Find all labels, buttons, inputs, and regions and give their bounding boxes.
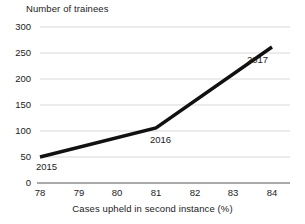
x-tick-84: 84 <box>267 187 278 198</box>
y-tick-50: 50 <box>20 151 31 162</box>
x-tick-82: 82 <box>190 187 201 198</box>
y-tick-100: 100 <box>15 125 31 136</box>
annotation-2016: 2016 <box>150 134 171 145</box>
x-tick-78: 78 <box>35 187 46 198</box>
x-tick-80: 80 <box>112 187 123 198</box>
x-axis-tick-labels: 78 79 80 81 82 83 84 <box>35 187 278 198</box>
y-axis-tick-labels: 300 250 200 150 100 50 0 <box>15 21 31 188</box>
x-tick-81: 81 <box>151 187 162 198</box>
data-point-annotations: 2015 2016 2017 <box>36 54 268 172</box>
y-tick-300: 300 <box>15 21 31 32</box>
annotation-2017: 2017 <box>247 54 268 65</box>
y-tick-250: 250 <box>15 47 31 58</box>
x-axis-title: Cases upheld in second instance (%) <box>0 203 305 214</box>
annotation-2015: 2015 <box>36 161 57 172</box>
y-tick-150: 150 <box>15 99 31 110</box>
x-tick-83: 83 <box>228 187 239 198</box>
y-tick-0: 0 <box>26 177 31 188</box>
line-chart-plot: 300 250 200 150 100 50 0 78 79 80 81 82 … <box>0 0 305 224</box>
chart-container: Number of trainees 300 250 200 150 100 5… <box>0 0 305 224</box>
x-tick-79: 79 <box>74 187 85 198</box>
y-tick-200: 200 <box>15 73 31 84</box>
